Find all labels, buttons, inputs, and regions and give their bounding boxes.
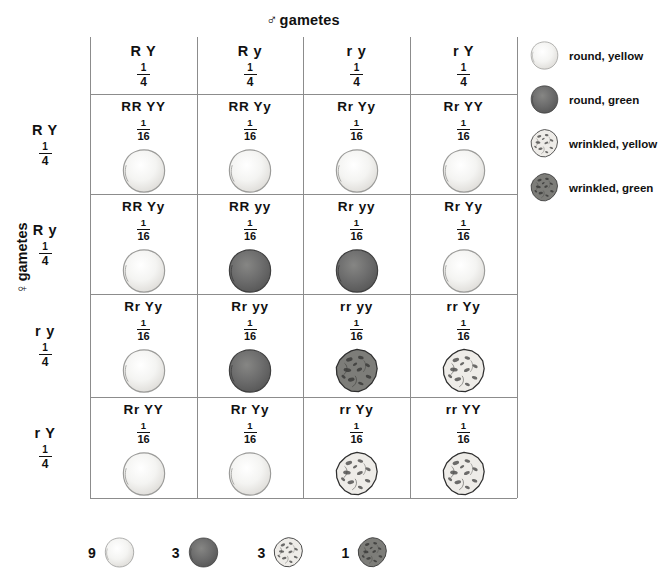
cell-genotype: RR Yy (122, 198, 165, 215)
legend-item-1: round, yellow (529, 40, 672, 71)
fraction-numerator: 1 (141, 63, 147, 74)
column-header-3: r y14 (303, 37, 410, 94)
cell-genotype: rr YY (446, 401, 482, 418)
fraction-denominator: 16 (137, 330, 149, 342)
fraction: 116 (244, 421, 257, 445)
fraction: 14 (39, 242, 52, 267)
fraction-denominator: 4 (460, 75, 467, 88)
punnett-grid: R Y14R y14r y14r Y14R Y14R y14r y14r Y14… (90, 37, 517, 498)
cell-genotype: Rr YY (123, 401, 163, 418)
fraction: 116 (457, 421, 470, 445)
pea-icon-wrinkled-yellow (529, 128, 560, 159)
fraction-numerator: 1 (354, 218, 359, 229)
ratio-item-2: 3 (172, 536, 220, 569)
fraction-denominator: 16 (137, 230, 149, 242)
fraction: 116 (244, 318, 257, 342)
fraction-numerator: 1 (141, 118, 146, 129)
fraction: 116 (350, 218, 363, 242)
cell-genotype: Rr Yy (231, 401, 270, 418)
fraction: 116 (457, 318, 470, 342)
cell-genotype: RR yy (229, 198, 271, 215)
pea-icon-round-yellow (120, 147, 168, 195)
fraction-denominator: 16 (244, 330, 256, 342)
row-header-4: r Y14 (0, 397, 90, 498)
fraction-numerator: 1 (461, 421, 466, 432)
fraction: 14 (457, 63, 470, 88)
fraction: 116 (350, 318, 363, 342)
punnett-cell-r2c2: RR yy116 (197, 194, 303, 294)
fraction-denominator: 16 (350, 130, 362, 142)
pea-icon-wrinkled-yellow (272, 536, 305, 569)
legend-item-4: wrinkled, green (529, 172, 672, 203)
fraction: 116 (137, 118, 150, 142)
fraction-numerator: 1 (247, 218, 252, 229)
fraction-numerator: 1 (461, 318, 466, 329)
fraction: 116 (137, 318, 150, 342)
pea-icon-wrinkled-green (356, 536, 389, 569)
fraction: 14 (350, 63, 363, 88)
column-header-gametes: r y (347, 43, 367, 60)
punnett-cell-r3c3: rr yy116 (303, 294, 410, 397)
fraction: 116 (350, 118, 363, 142)
pea-icon-round-green (226, 247, 274, 295)
fraction-denominator: 4 (42, 154, 49, 167)
fraction-numerator: 1 (247, 118, 252, 129)
pea-icon-round-green (187, 536, 220, 569)
ratio-item-3: 3 (258, 536, 306, 569)
fraction-denominator: 16 (244, 130, 256, 142)
fraction-numerator: 1 (42, 445, 48, 456)
ratio-item-1: 9 (88, 536, 136, 569)
grid-horizontal-line (90, 498, 517, 499)
fraction-denominator: 4 (353, 75, 360, 88)
pea-icon-round-yellow (440, 147, 488, 195)
fraction-numerator: 1 (247, 63, 253, 74)
column-header-gametes: R Y (130, 43, 156, 60)
punnett-cell-r1c1: RR YY116 (90, 94, 197, 194)
fraction-numerator: 1 (247, 421, 252, 432)
punnett-cell-r1c2: RR Yy116 (197, 94, 303, 194)
row-header-gametes: r y (35, 323, 55, 340)
column-header-4: r Y14 (410, 37, 517, 94)
cell-genotype: Rr Yy (444, 198, 483, 215)
legend-item-label: round, green (569, 94, 639, 106)
pea-icon-round-green (226, 347, 274, 395)
ratio-item-4: 1 (341, 536, 389, 569)
punnett-cell-r1c4: Rr YY116 (410, 94, 517, 194)
pea-icon-wrinkled-green (529, 172, 560, 203)
pea-icon-round-yellow (333, 147, 381, 195)
row-header-2: R y14 (0, 194, 90, 294)
pea-icon-wrinkled-green (333, 347, 381, 395)
ratio-count: 3 (172, 545, 180, 561)
legend-item-label: round, yellow (569, 50, 643, 62)
phenotype-ratio: 9 3 3 1 (88, 536, 389, 569)
row-header-gametes: R Y (32, 122, 58, 139)
punnett-cell-r4c4: rr YY116 (410, 397, 517, 498)
fraction-denominator: 4 (42, 457, 49, 470)
pea-icon-round-yellow (120, 347, 168, 395)
fraction-numerator: 1 (354, 421, 359, 432)
male-symbol-icon: ♂ (266, 11, 279, 28)
fraction-denominator: 16 (137, 130, 149, 142)
fraction-numerator: 1 (461, 118, 466, 129)
cell-genotype: Rr yy (231, 298, 268, 315)
punnett-cell-r2c3: Rr yy116 (303, 194, 410, 294)
fraction-denominator: 16 (350, 433, 362, 445)
legend-item-3: wrinkled, yellow (529, 128, 672, 159)
column-header-gametes: r Y (453, 43, 474, 60)
fraction-numerator: 1 (141, 218, 146, 229)
cell-genotype: RR Yy (228, 98, 271, 115)
legend-item-label: wrinkled, green (569, 182, 653, 194)
fraction: 116 (457, 118, 470, 142)
column-header-2: R y14 (197, 37, 303, 94)
pea-icon-wrinkled-yellow (440, 450, 488, 498)
row-header-3: r y14 (0, 294, 90, 397)
fraction-denominator: 4 (42, 254, 49, 267)
pea-icon-round-yellow (440, 247, 488, 295)
pea-icon-round-green (529, 84, 560, 115)
fraction-numerator: 1 (354, 63, 360, 74)
pea-icon-round-yellow (120, 247, 168, 295)
fraction: 116 (244, 118, 257, 142)
male-gametes-label: gametes (280, 12, 340, 28)
fraction: 116 (457, 218, 470, 242)
pea-icon-round-green (333, 247, 381, 295)
